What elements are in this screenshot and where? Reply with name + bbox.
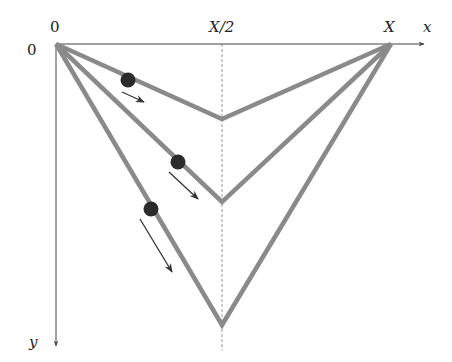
- arrow-shallow-icon: [122, 92, 144, 102]
- ball-medium: [171, 155, 186, 170]
- v-paths-diagram: 0 0 X/2 X x y: [0, 0, 452, 362]
- ball-steep: [144, 202, 159, 217]
- end-label: X: [383, 18, 396, 36]
- x-axis-label: x: [423, 18, 432, 36]
- y-axis-label: y: [28, 333, 38, 351]
- origin-y-label: 0: [27, 41, 37, 59]
- path-shallow: [56, 44, 391, 119]
- origin-x-label: 0: [50, 18, 60, 36]
- path-steep: [56, 44, 391, 325]
- ball-shallow: [121, 73, 136, 88]
- arrow-steep-icon: [140, 219, 172, 272]
- mid-label: X/2: [208, 18, 234, 36]
